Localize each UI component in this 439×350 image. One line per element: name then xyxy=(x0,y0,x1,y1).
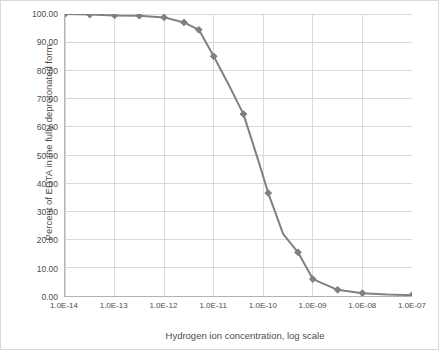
y-tick-label: 90.00 xyxy=(10,37,58,47)
x-tick-label: 1.0E-13 xyxy=(100,301,128,310)
x-tick-label: 1.0E-14 xyxy=(50,301,78,310)
x-axis-title: Hydrogen ion concentration, log scale xyxy=(60,330,430,341)
y-tick-label: 30.00 xyxy=(10,207,58,217)
y-tick-label: 40.00 xyxy=(10,179,58,189)
data-marker-diamond xyxy=(359,290,366,296)
y-tick-label: 100.00 xyxy=(10,9,58,19)
y-tick-label: 20.00 xyxy=(10,235,58,245)
x-tick-label: 1.0E-09 xyxy=(299,301,327,310)
y-axis-tick-labels: 0.0010.0020.0030.0040.0050.0060.0070.008… xyxy=(8,14,58,297)
y-tick-label: 70.00 xyxy=(10,94,58,104)
chart-container: Percent of EDTA in the fully deprotonate… xyxy=(0,0,439,350)
x-tick-label: 1.0E-10 xyxy=(249,301,277,310)
x-tick-label: 1.0E-07 xyxy=(398,301,426,310)
data-marker-diamond xyxy=(86,14,93,18)
y-tick-label: 80.00 xyxy=(10,66,58,76)
chart-svg xyxy=(65,14,412,296)
y-tick-label: 60.00 xyxy=(10,122,58,132)
x-axis-tick-labels: 1.0E-141.0E-131.0E-121.0E-111.0E-101.0E-… xyxy=(64,299,412,317)
y-tick-label: 10.00 xyxy=(10,264,58,274)
data-marker-diamond xyxy=(65,14,68,17)
data-marker-diamond xyxy=(334,286,341,293)
data-marker-diamond xyxy=(161,14,168,21)
data-marker-diamond xyxy=(409,292,412,296)
data-marker-diamond xyxy=(240,111,247,118)
data-marker-diamond xyxy=(111,14,118,19)
x-tick-label: 1.0E-08 xyxy=(348,301,376,310)
data-marker-diamond xyxy=(181,19,188,26)
plot-area xyxy=(64,14,412,297)
x-tick-label: 1.0E-11 xyxy=(199,301,226,310)
data-marker-diamond xyxy=(265,190,272,197)
x-tick-label: 1.0E-12 xyxy=(149,301,177,310)
y-tick-label: 50.00 xyxy=(10,151,58,161)
data-marker-diamond xyxy=(136,14,143,19)
